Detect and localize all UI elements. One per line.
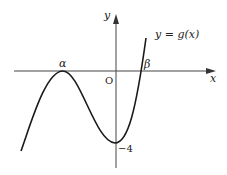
origin-label: O xyxy=(105,75,113,86)
function-label: y = g(x) xyxy=(154,28,199,41)
y-axis-label: y xyxy=(103,9,111,22)
alpha-label: α xyxy=(59,57,67,70)
beta-label: β xyxy=(143,58,150,71)
graph-figure: y x O α β −4 y = g(x) xyxy=(0,0,227,175)
y-axis-arrow-icon xyxy=(113,14,119,24)
function-curve xyxy=(21,38,146,151)
y-intercept-label: −4 xyxy=(118,143,133,154)
x-axis-label: x xyxy=(210,72,217,85)
